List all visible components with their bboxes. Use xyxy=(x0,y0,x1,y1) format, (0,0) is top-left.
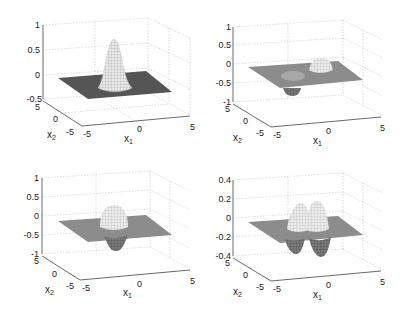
surface-peak xyxy=(100,205,128,230)
z-tick: 1 xyxy=(25,174,39,183)
x-axis-label: x1 xyxy=(124,134,133,147)
z-tick: 0 xyxy=(217,60,231,69)
z-tick: 0.2 xyxy=(209,195,231,204)
surface-peak xyxy=(98,40,132,92)
y-tick: 5 xyxy=(34,257,39,266)
surface-peak xyxy=(309,58,333,73)
subplot-top-right: 1 0.5 0 -0.5 -1 5 0 -5 -5 0 5 x2 x1 xyxy=(203,0,407,159)
y-tick: 0 xyxy=(53,115,58,124)
x-tick: 0 xyxy=(326,127,331,136)
z-tick: 1 xyxy=(217,23,231,32)
x-axis-label: x1 xyxy=(313,136,322,149)
x-tick: 0 xyxy=(137,280,142,289)
x-axis-label: x1 xyxy=(123,288,132,301)
z-tick: 1 xyxy=(26,21,40,30)
y-tick: -5 xyxy=(256,129,264,138)
surface-plane xyxy=(248,61,363,88)
x-axis-label: x1 xyxy=(313,290,322,303)
y-axis-label: x2 xyxy=(233,133,242,146)
z-tick: 0 xyxy=(217,214,231,223)
surface-trough xyxy=(309,237,331,257)
z-tick: -0.5 xyxy=(205,79,231,88)
subplot-bottom-left: 1 0.5 0 -0.5 -1 5 0 -5 -5 0 5 x2 x1 xyxy=(0,159,204,318)
y-tick: 0 xyxy=(52,270,57,279)
surface-peak xyxy=(305,201,329,232)
y-axis-label: x2 xyxy=(45,285,54,298)
y-tick: 5 xyxy=(225,105,230,114)
z-tick: 0.4 xyxy=(209,176,231,185)
x-tick: 0 xyxy=(326,281,331,290)
subplot-top-left: 1 0.5 0 -0.5 5 0 -5 -5 0 5 x2 x1 xyxy=(0,0,204,159)
y-axis-label: x2 xyxy=(47,130,56,143)
y-tick: -5 xyxy=(66,282,74,291)
surface-trough xyxy=(283,88,301,96)
z-tick: 0.5 xyxy=(20,46,40,55)
x-tick: -5 xyxy=(273,131,281,140)
x-tick: 5 xyxy=(380,124,385,133)
y-tick: 5 xyxy=(225,259,230,268)
y-axis-label: x2 xyxy=(233,287,242,300)
x-tick: -5 xyxy=(273,285,281,294)
x-tick: -5 xyxy=(83,130,91,139)
x-tick: 5 xyxy=(190,123,195,132)
z-tick: -0.5 xyxy=(13,231,39,240)
z-tick: 0.5 xyxy=(19,193,39,202)
y-tick: 0 xyxy=(243,271,248,280)
x-tick: 5 xyxy=(380,278,385,287)
z-tick: 0 xyxy=(26,71,40,80)
surface-depression-rim xyxy=(281,71,305,81)
subplot-bottom-right: 0.4 0.2 0 -0.2 -0.4 5 0 -5 -5 0 5 x2 x1 xyxy=(203,159,407,318)
x-tick: -5 xyxy=(82,284,90,293)
x-tick: 5 xyxy=(190,277,195,286)
z-tick: 0 xyxy=(25,212,39,221)
y-tick: 0 xyxy=(243,117,248,126)
x-tick: 0 xyxy=(137,125,142,134)
y-tick: -5 xyxy=(256,283,264,292)
z-tick: -0.2 xyxy=(203,233,231,242)
y-tick: -5 xyxy=(66,128,74,137)
y-tick: 5 xyxy=(35,103,40,112)
z-tick: 0.5 xyxy=(211,41,231,50)
